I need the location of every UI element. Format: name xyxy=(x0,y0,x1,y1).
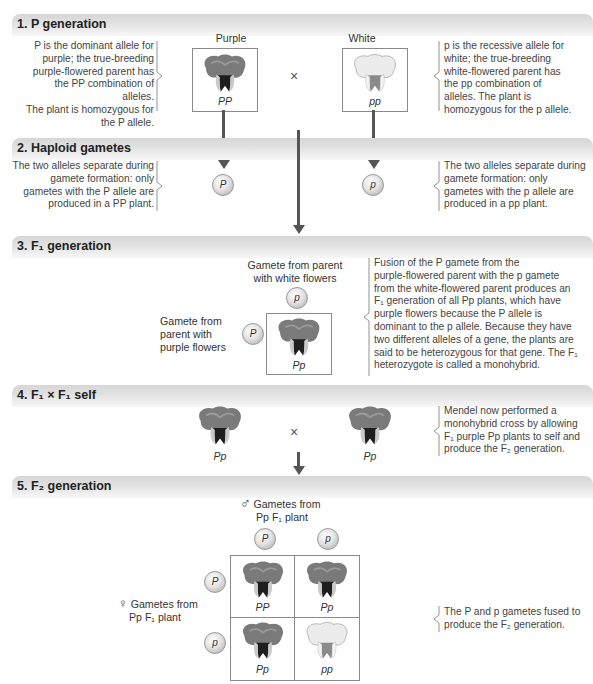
gamete-P: P xyxy=(204,571,226,593)
genotype-label: pp xyxy=(343,95,407,107)
section-title: 2. Haploid gametes xyxy=(17,141,131,155)
section-title: 5. F₂ generation xyxy=(17,479,111,493)
arrow-down-icon xyxy=(218,160,230,169)
f1-self-description: Mendel now performed a monohybrid cross … xyxy=(444,405,589,456)
arrow-line xyxy=(297,130,300,227)
arrow-down-icon xyxy=(293,466,305,475)
section-title: 1. P generation xyxy=(17,17,106,31)
white-flower-icon xyxy=(301,621,353,663)
section-header-f1-self: 4. F₁ × F₁ self xyxy=(12,385,593,407)
cross-symbol: × xyxy=(290,424,298,440)
section-header-f1-generation: 3. F₁ generation xyxy=(12,236,593,258)
purple-flower-icon xyxy=(301,560,353,602)
f1-description: Fusion of the P gamete from the purple-f… xyxy=(374,257,589,372)
arrow-down-icon xyxy=(368,160,380,169)
brace-icon xyxy=(432,41,440,111)
brace-icon xyxy=(432,406,440,456)
purple-label: Purple xyxy=(196,32,266,45)
male-symbol-icon: ♂ xyxy=(240,495,251,511)
genotype-label: Pp xyxy=(343,450,397,462)
genotype-label: PP xyxy=(193,95,257,107)
purple-flower-icon xyxy=(237,621,289,663)
punnett-cell: pp xyxy=(295,618,359,680)
genotype-label: Pp xyxy=(193,450,247,462)
section-title: 3. F₁ generation xyxy=(17,239,111,253)
section-header-haploid-gametes: 2. Haploid gametes xyxy=(12,138,593,160)
white-parent-box: pp xyxy=(342,48,408,112)
purple-flower-icon xyxy=(273,317,325,360)
purple-parent-box: PP xyxy=(192,48,258,112)
genotype-label: PP xyxy=(231,601,294,613)
genotype-label: Pp xyxy=(231,663,294,675)
punnett-cell: Pp xyxy=(231,618,294,680)
brace-icon xyxy=(362,258,370,376)
section-title: 4. F₁ × F₁ self xyxy=(17,388,96,402)
punnett-square: PP Pp Pp pp xyxy=(230,555,360,681)
genotype-label: pp xyxy=(295,663,359,675)
purple-flower-icon xyxy=(237,560,289,602)
female-gametes-label: ♀ Gametes from Pp F₁ plant xyxy=(118,597,208,624)
female-symbol-icon: ♀ xyxy=(118,596,128,611)
brace-icon xyxy=(432,606,440,632)
gamete-p: p xyxy=(317,528,339,550)
gamete-purple-parent-label: Gamete from parent with purple flowers xyxy=(160,315,230,354)
gamete-P: P xyxy=(242,323,264,345)
gamete-P: P xyxy=(212,174,234,196)
arrow-down-icon xyxy=(293,225,305,234)
gamete-p: p xyxy=(204,632,226,654)
white-label: White xyxy=(327,32,397,45)
punnett-cell: PP xyxy=(231,556,294,617)
purple-flower-icon xyxy=(199,53,251,96)
punnett-cell: Pp xyxy=(295,556,359,617)
male-gametes-label: ♂ Gametes from Pp F₁ plant xyxy=(240,497,350,524)
gamete-P: P xyxy=(254,528,276,550)
section-header-f2-generation: 5. F₂ generation xyxy=(12,476,593,498)
f2-description: The P and p gametes fused to produce the… xyxy=(444,606,589,632)
f1-offspring-box: Pp xyxy=(266,313,332,375)
haploid-left-description: The two alleles separate during gamete f… xyxy=(12,160,154,211)
white-flower-icon xyxy=(349,53,401,96)
gamete-p: p xyxy=(362,174,384,196)
p-generation-left-description: P is the dominant allele for purple; the… xyxy=(22,40,154,130)
haploid-right-description: The two alleles separate during gamete f… xyxy=(444,160,589,211)
genotype-label: Pp xyxy=(295,601,359,613)
p-generation-right-description: p is the recessive allele for white; the… xyxy=(444,40,584,117)
genotype-label: Pp xyxy=(267,359,331,371)
purple-flower-icon xyxy=(193,405,247,449)
gamete-white-parent-label: Gamete from parent with white flowers xyxy=(230,259,360,285)
section-header-p-generation: 1. P generation xyxy=(12,14,593,36)
brace-icon xyxy=(156,41,164,111)
purple-flower-icon xyxy=(343,405,397,449)
brace-icon xyxy=(156,161,164,211)
brace-icon xyxy=(432,161,440,211)
gamete-p: p xyxy=(286,287,308,309)
cross-symbol: × xyxy=(290,68,298,84)
